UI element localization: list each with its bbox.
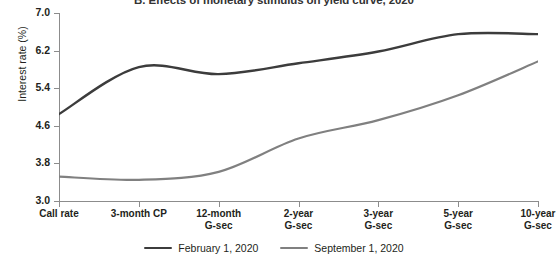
x-tick-label-line: G-sec bbox=[256, 220, 342, 232]
plot-area bbox=[59, 13, 538, 201]
x-tick-label: Call rate bbox=[16, 208, 102, 220]
series-lines bbox=[59, 13, 538, 201]
x-tick-label-line: G-sec bbox=[415, 220, 501, 232]
x-tick-label-line: 12-month bbox=[176, 208, 262, 220]
x-tick-mark bbox=[299, 202, 300, 207]
y-tick-label: 4.6 bbox=[22, 119, 50, 131]
x-tick-label-line: Call rate bbox=[16, 208, 102, 220]
x-tick-mark bbox=[378, 202, 379, 207]
y-tick-label: 5.4 bbox=[22, 81, 50, 93]
x-tick-mark bbox=[458, 202, 459, 207]
legend-entry[interactable]: February 1, 2020 bbox=[144, 242, 258, 254]
y-tick-label: 6.2 bbox=[22, 44, 50, 56]
x-tick-mark bbox=[219, 202, 220, 207]
x-tick-label-line: 5-year bbox=[415, 208, 501, 220]
x-tick-label: 3-month CP bbox=[96, 208, 182, 220]
chart-legend: February 1, 2020September 1, 2020 bbox=[0, 242, 548, 254]
series-line-2 bbox=[59, 61, 538, 180]
x-tick-label-line: G-sec bbox=[335, 220, 421, 232]
x-tick-label-line: 3-month CP bbox=[96, 208, 182, 220]
x-tick-label: 10-yearG-sec bbox=[495, 208, 560, 231]
chart-title: B. Effects of monetary stimulus on yield… bbox=[0, 0, 548, 6]
x-tick-label: 12-monthG-sec bbox=[176, 208, 262, 231]
x-tick-label: 5-yearG-sec bbox=[415, 208, 501, 231]
legend-entry[interactable]: September 1, 2020 bbox=[280, 242, 403, 254]
legend-swatch-line-icon bbox=[280, 247, 308, 250]
x-tick-label: 2-yearG-sec bbox=[256, 208, 342, 231]
x-tick-label: 3-yearG-sec bbox=[335, 208, 421, 231]
x-tick-label-line: 10-year bbox=[495, 208, 560, 220]
x-tick-label-line: 3-year bbox=[335, 208, 421, 220]
y-axis-title: Interest rate (%) bbox=[16, 0, 28, 134]
y-tick-label: 3.8 bbox=[22, 156, 50, 168]
x-tick-mark bbox=[538, 202, 539, 207]
y-tick-label: 7.0 bbox=[22, 6, 50, 18]
x-tick-label-line: 2-year bbox=[256, 208, 342, 220]
x-tick-label-line: G-sec bbox=[495, 220, 560, 232]
x-tick-label-line: G-sec bbox=[176, 220, 262, 232]
legend-label: February 1, 2020 bbox=[178, 242, 258, 254]
series-line-1 bbox=[59, 33, 538, 114]
legend-label: September 1, 2020 bbox=[314, 242, 403, 254]
x-tick-mark bbox=[139, 202, 140, 207]
legend-swatch-line-icon bbox=[144, 247, 172, 250]
y-tick-label: 3.0 bbox=[22, 194, 50, 206]
x-tick-mark bbox=[59, 202, 60, 207]
